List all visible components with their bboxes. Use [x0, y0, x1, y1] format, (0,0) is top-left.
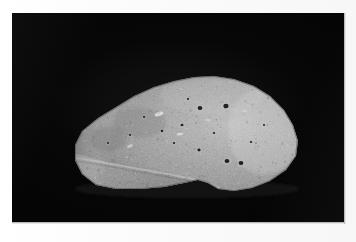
speckle [260, 80, 262, 82]
speckle [179, 148, 181, 150]
speckle [138, 78, 139, 79]
speckle [226, 104, 227, 105]
speckle [131, 158, 133, 160]
speckle [93, 145, 95, 147]
speckle [296, 129, 298, 131]
speckle [244, 174, 245, 175]
speckle [74, 144, 75, 145]
speckle [166, 142, 167, 143]
speckle [185, 163, 186, 164]
speckle [85, 156, 86, 157]
speckle [299, 93, 301, 95]
speckle [233, 87, 234, 88]
speckle [90, 98, 91, 99]
speckle [200, 140, 202, 142]
speckle [171, 126, 173, 128]
speckle [235, 141, 236, 142]
speckle [257, 150, 259, 152]
speckle [209, 131, 210, 132]
speckle [127, 92, 129, 94]
speckle [299, 77, 300, 78]
speckle [281, 80, 282, 81]
speckle [298, 162, 300, 164]
speckle [124, 78, 126, 80]
speckle [194, 148, 196, 150]
speckle [279, 163, 280, 164]
pit-14 [187, 98, 189, 100]
speckle [193, 167, 194, 168]
speckle [236, 186, 238, 188]
speckle [119, 111, 121, 113]
speckle [219, 104, 221, 106]
speckle [211, 95, 213, 97]
speckle [296, 160, 297, 161]
speckle [268, 179, 269, 180]
speckle [269, 121, 270, 122]
speckle [117, 155, 119, 157]
speckle [185, 177, 187, 179]
speckle [77, 179, 79, 181]
speckle [234, 146, 235, 147]
speckle [182, 144, 183, 145]
speckle [150, 110, 152, 112]
speckle [245, 149, 246, 150]
speckle [146, 184, 148, 186]
speckle [264, 141, 266, 143]
speckle [239, 75, 240, 76]
speckle [216, 119, 218, 121]
speckle [295, 126, 296, 127]
speckle [84, 77, 85, 78]
speckle [166, 159, 168, 161]
speckle [279, 87, 281, 89]
pit-15 [263, 124, 265, 126]
speckle [190, 110, 192, 112]
speckle [291, 144, 293, 146]
pit-4 [197, 149, 200, 152]
speckle [263, 123, 264, 124]
speckle [289, 85, 290, 86]
speckle [150, 83, 151, 84]
speckle [122, 147, 124, 149]
speckle [218, 114, 219, 115]
speckle [157, 174, 158, 175]
pit-13 [107, 142, 109, 144]
speckle [272, 162, 274, 164]
speckle [255, 142, 257, 144]
speckle [106, 167, 107, 168]
speckle [176, 74, 178, 76]
speckle [260, 111, 262, 113]
speckle [147, 77, 149, 79]
speckle [111, 121, 112, 122]
speckle [143, 147, 145, 149]
speckle [271, 135, 272, 136]
speckle [252, 89, 253, 90]
speckle [270, 114, 271, 115]
speckle [125, 83, 126, 84]
speckle [190, 108, 191, 109]
speckle [293, 170, 294, 171]
speckle [207, 106, 208, 107]
speckle [238, 151, 240, 153]
speckle [263, 84, 265, 86]
speckle [254, 159, 255, 160]
speckle [220, 101, 222, 103]
speckle [145, 76, 146, 77]
speckle [131, 125, 133, 127]
speckle [86, 107, 87, 108]
speckle [90, 79, 92, 81]
speckle [235, 145, 237, 147]
speckle [74, 182, 75, 183]
speckle [289, 82, 291, 84]
speckle [162, 99, 164, 101]
speckle [119, 182, 121, 184]
speckle [85, 166, 86, 167]
speckle [125, 92, 126, 93]
speckle [97, 169, 99, 171]
speckle [243, 88, 245, 90]
speckle [296, 100, 298, 102]
speckle [88, 97, 90, 99]
speckle [186, 173, 188, 175]
speckle [86, 167, 88, 169]
speckle [81, 76, 82, 77]
speckle [94, 74, 96, 76]
